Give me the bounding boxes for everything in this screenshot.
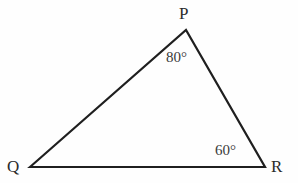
geometry-figure: P Q R 80° 60°: [0, 0, 298, 183]
angle-label-r: 60°: [215, 143, 236, 158]
vertex-label-p: P: [179, 5, 188, 22]
vertex-label-q: Q: [7, 158, 19, 175]
angle-label-p: 80°: [166, 50, 187, 65]
vertex-label-r: R: [271, 158, 282, 175]
triangle-pqr-svg: [0, 0, 298, 183]
